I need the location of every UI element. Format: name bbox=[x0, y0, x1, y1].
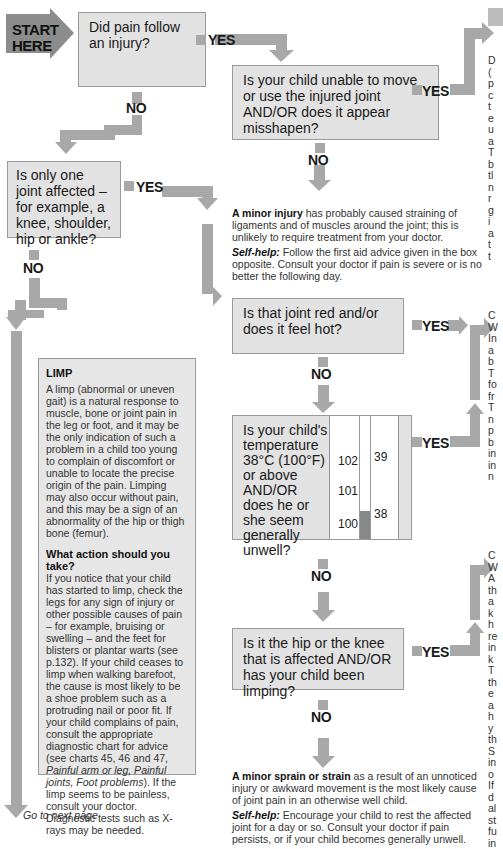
outcome-minor-injury: A minor injury has probably caused strai… bbox=[232, 207, 482, 282]
question-box-one-joint[interactable]: Is only one joint affected – for example… bbox=[7, 161, 121, 238]
question-text: Is it the hip or the knee that is affect… bbox=[243, 635, 391, 699]
question-text: Is only one joint affected – for example… bbox=[16, 167, 111, 247]
question-box-hip-knee[interactable]: Is it the hip or the knee that is affect… bbox=[232, 628, 404, 690]
right-box-top bbox=[488, 8, 503, 26]
yes-marker bbox=[412, 646, 422, 656]
q2-yes-label: YES bbox=[422, 83, 449, 99]
no-marker bbox=[29, 250, 39, 260]
q5-no-label: NO bbox=[311, 568, 331, 584]
limp-info-box: LIMP A limp (abnormal or uneven gait) is… bbox=[38, 358, 196, 775]
limp-action-text: If you notice that your child has starte… bbox=[46, 572, 183, 764]
limp-title: LIMP bbox=[46, 367, 188, 379]
question-text: Is your child's temperature 38°C (100°F)… bbox=[243, 423, 328, 558]
limp-action-paragraph: If you notice that your child has starte… bbox=[46, 572, 188, 836]
q4-no-label: NO bbox=[311, 366, 331, 382]
question-box-temperature[interactable]: Is your child's temperature 38°C (100°F)… bbox=[232, 415, 412, 540]
scale-f-101: 101 bbox=[338, 483, 358, 499]
thermometer-edge bbox=[398, 416, 411, 539]
question-text: Is your child unable to move or use the … bbox=[243, 72, 417, 136]
q5-yes-label: YES bbox=[422, 435, 449, 451]
start-line1: START bbox=[12, 22, 58, 38]
yes-marker bbox=[412, 320, 422, 330]
thermometer-mercury bbox=[360, 511, 370, 539]
scale-c-38: 38 bbox=[374, 506, 387, 522]
q2-no-label: NO bbox=[308, 152, 328, 168]
question-box-unable-to-move[interactable]: Is your child unable to move or use the … bbox=[232, 65, 439, 140]
go-to-next-page-link[interactable]: Go to next page bbox=[23, 809, 98, 821]
scale-f-102: 102 bbox=[338, 453, 358, 469]
yes-marker bbox=[196, 35, 206, 45]
start-here-label: START HERE bbox=[12, 22, 58, 54]
q4-yes-label: YES bbox=[422, 318, 449, 334]
q3-no-label: NO bbox=[23, 260, 43, 276]
scale-f-100: 100 bbox=[338, 516, 358, 532]
right-column-block-1: D ( p c t e u a T b tl n r g i a t t bbox=[488, 55, 503, 262]
right-column-block-2: C W In a b T fo fr T n p b in in n bbox=[488, 310, 503, 483]
question-text: Is that joint red and/or does it feel ho… bbox=[243, 305, 378, 337]
q3-yes-label: YES bbox=[136, 179, 163, 195]
q1-yes-label: YES bbox=[208, 32, 235, 48]
question-box-injury[interactable]: Did pain follow an injury? bbox=[78, 12, 206, 87]
thermometer: 102 101 100 39 38 bbox=[329, 416, 410, 539]
question-text: Did pain follow an injury? bbox=[89, 19, 180, 51]
selfhelp-label: Self-help: bbox=[232, 809, 280, 821]
scale-c-39: 39 bbox=[374, 449, 387, 465]
outcome-title: A minor sprain or strain bbox=[232, 770, 351, 782]
right-column-block-3: C W A th a k h re in k T th e a h y th S… bbox=[488, 550, 503, 849]
outcome-title: A minor injury bbox=[232, 207, 303, 219]
yes-marker bbox=[412, 437, 422, 447]
selfhelp-label: Self-help: bbox=[232, 246, 280, 258]
limp-paragraph: A limp (abnormal or uneven gait) is a na… bbox=[46, 383, 188, 539]
limp-subtitle: What action should you take? bbox=[46, 548, 188, 572]
yes-marker bbox=[412, 85, 422, 95]
start-line2: HERE bbox=[12, 38, 58, 54]
outcome-minor-sprain: A minor sprain or strain as a result of … bbox=[232, 770, 487, 845]
yes-marker bbox=[124, 181, 134, 191]
question-box-red-hot-joint[interactable]: Is that joint red and/or does it feel ho… bbox=[232, 298, 404, 354]
q1-no-label: NO bbox=[126, 100, 146, 116]
q6-no-label: NO bbox=[311, 709, 331, 725]
q6-yes-label: YES bbox=[422, 644, 449, 660]
